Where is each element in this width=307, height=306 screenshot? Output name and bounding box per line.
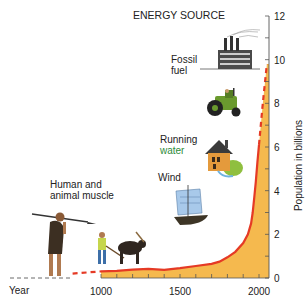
annotation-water-line2: water [160,145,197,156]
tractor-icon [207,88,241,117]
x-tick-label: 1000 [90,286,113,297]
x-axis-label: Year [9,285,29,296]
y-axis-label: Population in billions [293,96,304,236]
annotation-fossil-line2: fuel [171,65,197,76]
y-tick-label: 12 [274,11,286,22]
x-tick-label: 2000 [248,286,271,297]
annotation-running-water: Running water [160,134,197,156]
annotation-water-line1: Running [160,134,197,145]
y-tick-label: 4 [274,186,280,197]
population-chart: 100015002000024681012 [0,0,307,306]
y-tick-label: 8 [274,98,280,109]
ox-plough-icon [98,232,146,264]
annotation-fossil-line1: Fossil [171,54,197,65]
annotation-fossil-fuel: Fossil fuel [171,54,197,76]
y-tick-label: 0 [274,273,280,284]
y-tick-label: 10 [274,55,286,66]
x-tick-label: 1500 [169,286,192,297]
water-mill-icon [205,140,243,176]
illustrations [32,30,260,276]
y-tick-label: 2 [274,229,280,240]
hunter-icon [32,213,96,277]
y-tick-label: 6 [274,142,280,153]
population-line-early [73,271,101,273]
annotation-wind: Wind [158,172,181,183]
ship-icon [174,185,208,225]
annotation-muscle: Human and animal muscle [50,179,114,201]
chart-title: ENERGY SOURCE [133,10,225,21]
factory-icon [200,30,260,69]
